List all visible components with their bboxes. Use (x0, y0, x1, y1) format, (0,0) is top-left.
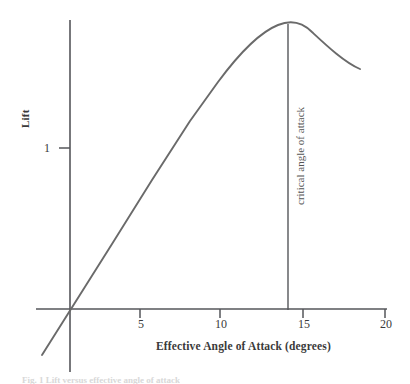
x-axis-title: Effective Angle of Attack (degrees) (156, 341, 331, 353)
x-axis-tick-label-10: 10 (206, 318, 236, 330)
y-axis-title: Lift (20, 109, 31, 128)
x-axis-ticks (140, 309, 385, 318)
x-axis-tick-label-20: 20 (371, 318, 401, 330)
figure-caption-clipped: Fig. 1 Lift versus effective angle of at… (22, 376, 180, 384)
critical-angle-of-attack-annotation-label: critical angle of attack (295, 107, 306, 205)
x-axis-tick-label-5: 5 (126, 318, 156, 330)
lift-vs-angle-of-attack-figure: Lift 1 5 10 15 20 Effective Angle of Att… (0, 0, 410, 384)
lift-curve (42, 22, 360, 355)
x-axis-tick-label-15: 15 (289, 318, 319, 330)
y-axis-tick-label-1: 1 (44, 142, 50, 154)
chart-canvas (0, 0, 410, 384)
